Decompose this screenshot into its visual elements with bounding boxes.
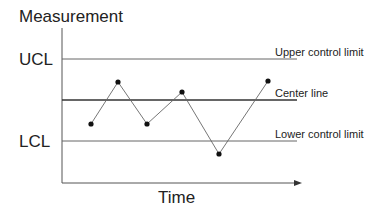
center-line-label: Center line [275,87,328,99]
ucl-label: UCL [19,50,53,70]
upper-control-limit-label: Upper control limit [275,46,364,58]
y-axis-label: Measurement [19,7,123,27]
x-axis-arrow-icon [294,180,302,186]
lcl-label: LCL [19,132,50,152]
x-axis-label: Time [158,188,195,208]
lower-control-limit-label: Lower control limit [275,128,364,140]
control-chart [0,0,382,215]
